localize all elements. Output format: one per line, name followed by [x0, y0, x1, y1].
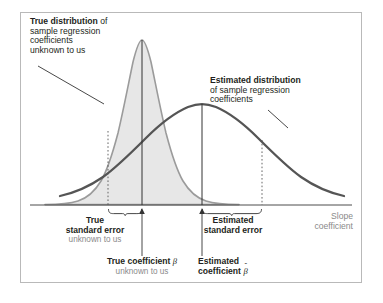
- true-distribution-leader-line: [38, 66, 104, 104]
- true-coefficient-bold: True coefficient: [107, 256, 171, 266]
- true-standard-error-label: True standard error unknown to us: [60, 216, 130, 244]
- true-standard-error-brace: [109, 210, 142, 216]
- true-coefficient-beta-symbol: β: [173, 256, 177, 266]
- estimated-distribution-caption: Estimated distribution of sample regress…: [210, 76, 301, 105]
- x-axis-label: Slope coefficient: [275, 212, 353, 231]
- hat-accent-icon: ˆ: [244, 262, 247, 271]
- estimated-coefficient-beta-hat: ˆβ: [243, 267, 247, 277]
- true-standard-error-line2: standard error: [66, 225, 125, 235]
- estimated-coefficient-line2: coefficient: [198, 266, 241, 276]
- true-distribution-caption-line4: unknown to us: [30, 46, 107, 56]
- x-axis-label-line2: coefficient: [275, 222, 353, 232]
- true-coefficient-label: True coefficient β unknown to us: [82, 257, 202, 276]
- true-distribution-caption-of: of: [98, 16, 108, 26]
- estimated-distribution-leader-line: [268, 110, 288, 128]
- estimated-standard-error-label: Estimated standard error: [197, 216, 269, 235]
- estimated-standard-error-line2: standard error: [204, 225, 263, 235]
- estimated-distribution-caption-line3: coefficients: [210, 95, 301, 105]
- estimated-distribution-caption-bold: Estimated distribution: [210, 75, 301, 85]
- estimated-coefficient-line1: Estimated: [198, 256, 239, 266]
- true-standard-error-line3: unknown to us: [60, 235, 130, 244]
- true-distribution-caption-bold: True distribution: [30, 16, 98, 26]
- figure-container: True distribution of sample regression c…: [0, 0, 383, 303]
- estimated-standard-error-line1: Estimated: [212, 215, 253, 225]
- true-coefficient-line2: unknown to us: [82, 267, 202, 276]
- true-standard-error-line1: True: [86, 215, 104, 225]
- estimated-coefficient-label: Estimated coefficient ˆβ: [198, 257, 248, 276]
- true-distribution-caption: True distribution of sample regression c…: [30, 17, 107, 56]
